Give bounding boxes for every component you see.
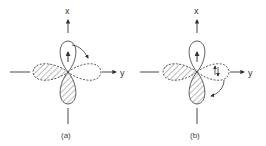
transition-arrow [211,80,224,96]
panel-b: x y (b) [140,6,253,140]
x-axis-label: x [65,6,70,16]
right-lobe [197,64,229,81]
caption-a: (a) [61,131,71,140]
bottom-lobe-hatched [60,72,76,104]
orbital-diagram: x y (a) x y (b) [0,0,266,146]
y-axis-label: y [248,68,253,78]
left-lobe-hatched [33,64,68,81]
panel-a: x y (a) [10,6,125,140]
right-lobe [68,64,101,81]
y-axis-label: y [120,68,125,78]
left-lobe-hatched [163,64,197,81]
x-axis-label: x [194,6,199,16]
caption-b: (b) [190,131,200,140]
bottom-lobe-hatched [189,72,205,104]
